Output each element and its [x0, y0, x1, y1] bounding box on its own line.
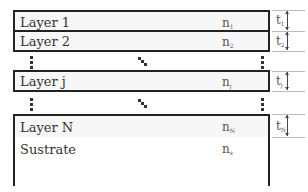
refractive-index-label: nN [222, 121, 235, 134]
substrate: Sustrate ns [13, 137, 270, 186]
refractive-index-label: n2 [222, 36, 234, 49]
thickness-arrow-icon [287, 32, 288, 50]
vertical-ellipsis-icon [261, 98, 264, 113]
layer-name: Layer 2 [20, 35, 70, 48]
vertical-ellipsis-icon [30, 98, 33, 113]
thickness-arrow-icon [287, 72, 288, 90]
layer-1: Layer 1 n1 [13, 10, 270, 32]
refractive-index-label: nj [222, 76, 232, 89]
thickness-guide-line [272, 137, 305, 138]
layer-2: Layer 2 n2 [13, 30, 270, 52]
substrate-name: Sustrate [20, 143, 76, 156]
thickness-arrow-icon [287, 115, 288, 136]
thickness-label-j: tj [276, 75, 283, 88]
layer-j: Layer j nj [13, 70, 270, 92]
thickness-arrow-icon [287, 11, 288, 30]
vertical-ellipsis-icon [30, 56, 33, 71]
refractive-index-label: n1 [222, 17, 234, 30]
vertical-ellipsis-icon [261, 56, 264, 71]
layer-name: Layer 1 [20, 16, 70, 29]
thickness-label-2: t2 [276, 35, 285, 48]
thickness-guide-line [272, 51, 305, 52]
thickness-label-1: t1 [276, 14, 285, 27]
layer-name: Layer j [20, 75, 66, 88]
substrate-index-label: ns [222, 143, 233, 156]
layer-name: Layer N [20, 121, 73, 134]
thickness-label-n: tN [276, 120, 286, 133]
thickness-guide-line [272, 91, 305, 92]
layer-n: Layer N nN [13, 114, 270, 139]
